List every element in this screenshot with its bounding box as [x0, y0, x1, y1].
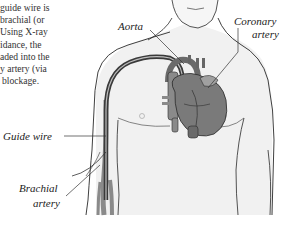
brachial-leader [66, 165, 100, 196]
label-coronary-line1: Coronary [234, 15, 276, 27]
heart [162, 72, 227, 138]
caption-line: aded into the [0, 51, 80, 63]
label-coronary-line2: artery [252, 28, 279, 40]
label-guide-wire: Guide wire [3, 130, 52, 142]
caption-line: Using X-ray [0, 26, 80, 38]
caption-line: idance, the [0, 39, 80, 51]
caption-line: blockage. [0, 75, 80, 87]
neck-outline [172, 0, 218, 28]
caption-line: y artery (via [0, 63, 80, 75]
caption-text: guide wire is brachial (or Using X-ray i… [0, 2, 80, 87]
label-brachial-line1: Brachial [19, 182, 58, 194]
caption-line: brachial (or [0, 14, 80, 26]
label-aorta: Aorta [118, 20, 143, 32]
label-brachial-line2: artery [33, 197, 60, 209]
caption-line: guide wire is [0, 2, 80, 14]
